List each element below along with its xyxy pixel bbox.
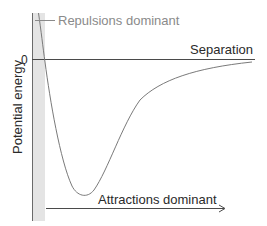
attraction-label: Attractions dominant [98, 192, 217, 207]
y-axis-label: Potential energy [10, 60, 25, 154]
separation-label: Separation [190, 42, 253, 57]
potential-energy-diagram: Repulsions dominant 0 Separation Potenti… [0, 0, 267, 226]
repulsion-label: Repulsions dominant [58, 13, 180, 28]
potential-energy-curve [39, 13, 253, 195]
